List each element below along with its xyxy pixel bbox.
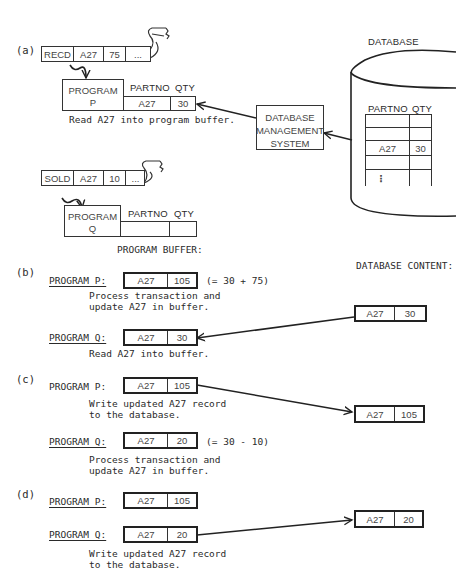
db-record-qty: 20 <box>394 512 422 526</box>
tape-cell-type: RECD <box>42 47 73 61</box>
panel-d-program-p-buffer: A27 105 <box>123 492 198 509</box>
db-record-partno: A27 <box>356 307 394 320</box>
panel-d-program-q-label: PROGRAM Q: <box>49 529 106 541</box>
db-cell-partno <box>366 115 409 127</box>
program-q-box: PROGRAM Q <box>64 205 121 237</box>
db-cell-qty <box>409 115 431 127</box>
program-p-partno: A27 <box>124 97 170 110</box>
program-q-col-qty: QTY <box>174 208 194 220</box>
panel-b-program-p-buffer: A27 105 <box>123 272 198 289</box>
program-q-qty <box>169 222 196 236</box>
dbms-box: DATABASE MANAGEMENT SYSTEM <box>256 105 324 150</box>
buffer-qty: 105 <box>167 494 196 507</box>
panel-a-label: (a) <box>16 44 35 56</box>
buffer-qty: 30 <box>167 331 196 344</box>
db-cell-qty: 30 <box>409 141 431 155</box>
db-record-qty: 105 <box>394 407 423 421</box>
panel-b-database-record: A27 30 <box>354 305 427 322</box>
database-row-ellipsis: ⋮ <box>365 169 432 186</box>
panel-d-q-caption-2: to the database. <box>89 559 181 571</box>
program-q-buffer <box>120 221 197 237</box>
program-p-name-2: P <box>63 96 123 108</box>
tape-cell-type: SOLD <box>42 171 73 185</box>
program-p-col-partno: PARTNO <box>130 82 170 94</box>
database-row-a27: A27 30 <box>365 140 432 155</box>
database-row <box>365 127 432 140</box>
panel-c-program-p-label: PROGRAM P: <box>49 381 106 393</box>
squiggle-arrow-p <box>70 65 86 78</box>
panel-b-q-caption: Read A27 into buffer. <box>89 348 209 360</box>
db-cell-qty <box>409 156 431 169</box>
program-p-box: PROGRAM P <box>62 79 124 111</box>
db-record-qty: 30 <box>394 307 425 320</box>
db-cell-qty <box>409 128 431 140</box>
panel-b-program-q-buffer: A27 30 <box>123 329 198 346</box>
panel-d-label: (d) <box>16 488 35 500</box>
program-p-buffer: A27 30 <box>123 96 196 111</box>
tape-cell-partno: A27 <box>73 47 103 61</box>
panel-d-program-q-buffer: A27 20 <box>123 526 198 543</box>
panel-c-label: (c) <box>16 373 35 385</box>
program-q-name-2: Q <box>65 222 120 234</box>
buffer-partno: A27 <box>125 494 167 507</box>
program-q-partno <box>121 222 169 236</box>
db-cell-partno: ⋮ <box>366 170 396 186</box>
panel-c-program-p-buffer: A27 105 <box>123 377 198 394</box>
program-q-name-1: PROGRAM <box>65 210 120 222</box>
buffer-qty: 20 <box>167 528 196 541</box>
database-row <box>365 114 432 127</box>
buffer-qty: 20 <box>167 434 196 447</box>
buffer-partno: A27 <box>125 379 167 392</box>
dbms-line-3: SYSTEM <box>257 137 323 149</box>
db-record-partno: A27 <box>356 512 394 526</box>
dbms-line-1: DATABASE <box>257 111 323 123</box>
db-cell-partno: A27 <box>366 141 409 155</box>
panel-c-q-note: (= 30 - 10) <box>206 436 269 448</box>
database-label: DATABASE <box>368 36 419 48</box>
panel-b-label: (b) <box>16 266 35 278</box>
program-p-name-1: PROGRAM <box>63 84 123 96</box>
panel-c-program-q-buffer: A27 20 <box>123 432 198 449</box>
panel-b-p-note: (= 30 + 75) <box>206 275 269 287</box>
tape-curl-p <box>148 28 169 58</box>
tape-cell-partno: A27 <box>73 171 103 185</box>
panel-c-q-caption-2: update A27 in buffer. <box>89 465 209 477</box>
tape-curl-q <box>142 161 163 183</box>
program-p-qty: 30 <box>170 97 195 110</box>
buffer-partno: A27 <box>125 528 167 541</box>
panel-b-program-p-label: PROGRAM P: <box>49 275 106 287</box>
input-tape-recd: RECD A27 75 ... <box>41 46 151 62</box>
panel-d-program-p-label: PROGRAM P: <box>49 496 106 508</box>
tape-cell-qty: 75 <box>103 47 125 61</box>
database-row <box>365 155 432 169</box>
buffer-partno: A27 <box>125 274 167 287</box>
panel-d-database-record: A27 20 <box>354 510 424 528</box>
panel-c-p-caption-2: to the database. <box>89 409 181 421</box>
tape-cell-more: ... <box>125 47 150 61</box>
program-q-col-partno: PARTNO <box>128 208 168 220</box>
tape-cell-more: ... <box>125 171 145 185</box>
db-cell-qty <box>409 170 431 186</box>
program-p-caption: Read A27 into program buffer. <box>69 114 235 126</box>
dbms-line-2: MANAGEMENT <box>257 124 323 136</box>
arrow-b-db-to-q <box>197 317 354 338</box>
panel-b-program-q-label: PROGRAM Q: <box>49 332 106 344</box>
input-tape-sold: SOLD A27 10 ... <box>41 170 145 186</box>
panel-c-database-record: A27 105 <box>354 405 425 423</box>
arrow-db-to-dbms <box>324 133 352 140</box>
tape-cell-qty: 10 <box>103 171 125 185</box>
program-buffer-header: PROGRAM BUFFER: <box>117 244 203 256</box>
program-p-col-qty: QTY <box>175 82 195 94</box>
buffer-partno: A27 <box>125 331 167 344</box>
database-table: A27 30 ⋮ <box>365 114 432 186</box>
panel-c-program-q-label: PROGRAM Q: <box>49 436 106 448</box>
panel-b-p-caption-2: update A27 in buffer. <box>89 301 209 313</box>
buffer-qty: 105 <box>167 274 196 287</box>
db-record-partno: A27 <box>356 407 394 421</box>
buffer-qty: 105 <box>167 379 196 392</box>
buffer-partno: A27 <box>125 434 167 447</box>
database-content-header: DATABASE CONTENT: <box>356 260 453 272</box>
arrow-d-q-to-db <box>197 520 352 535</box>
db-cell-partno <box>366 128 409 140</box>
db-cell-partno <box>366 156 409 169</box>
